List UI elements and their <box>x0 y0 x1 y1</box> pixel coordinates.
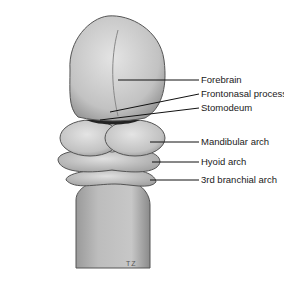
trunk <box>76 178 150 268</box>
label-mandibular-arch: Mandibular arch <box>201 137 269 147</box>
label-hyoid-arch: Hyoid arch <box>201 157 246 167</box>
label-third-branchial-arch: 3rd branchial arch <box>201 175 277 185</box>
label-stomodeum: Stomodeum <box>201 103 252 113</box>
mandibular-arch <box>60 120 165 156</box>
illustrator-initials: TZ <box>126 260 137 267</box>
label-forebrain: Forebrain <box>201 75 242 85</box>
label-frontonasal-process: Frontonasal process <box>201 89 284 99</box>
forebrain <box>70 16 165 121</box>
